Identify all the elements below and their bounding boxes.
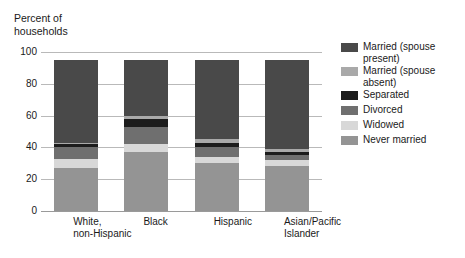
bar-segment-divorced[interactable] xyxy=(54,147,98,158)
stacked-bar-chart: Percent of households 020406080100 Marri… xyxy=(0,0,465,258)
bar-segment-separated[interactable] xyxy=(195,143,239,148)
y-axis-tick-label: 80 xyxy=(3,78,37,89)
legend-item-label: Separated xyxy=(363,89,409,101)
y-axis-tick-label: 100 xyxy=(3,46,37,57)
legend-swatch-icon xyxy=(341,67,358,76)
bar-segment-married-present[interactable] xyxy=(124,60,168,116)
legend-item-separated[interactable]: Separated xyxy=(341,89,463,103)
axis-baseline xyxy=(41,211,322,212)
bar-segment-married-present[interactable] xyxy=(265,60,309,149)
x-axis-category-label: Hispanic xyxy=(214,216,252,228)
legend-swatch-icon xyxy=(341,43,358,52)
y-axis-tick-label: 0 xyxy=(3,205,37,216)
bar-segment-married-absent[interactable] xyxy=(265,149,309,152)
bar-segment-separated[interactable] xyxy=(124,119,168,127)
y-axis-tick-label: 40 xyxy=(3,141,37,152)
y-axis-tick-label: 60 xyxy=(3,110,37,121)
bar-segment-widowed[interactable] xyxy=(54,159,98,169)
gridline xyxy=(41,52,322,53)
bar-segment-married-absent[interactable] xyxy=(54,143,98,145)
bar-segment-never-married[interactable] xyxy=(54,168,98,211)
x-axis-category-label: White, non-Hispanic xyxy=(73,216,131,240)
x-axis-category-label: Black xyxy=(143,216,167,228)
bar-segment-married-present[interactable] xyxy=(195,60,239,140)
legend-swatch-icon xyxy=(341,91,358,100)
bar-segment-married-absent[interactable] xyxy=(124,116,168,119)
bar-segment-married-present[interactable] xyxy=(54,60,98,143)
bar-segment-divorced[interactable] xyxy=(124,127,168,144)
bar-segment-widowed[interactable] xyxy=(124,144,168,152)
bar-stack[interactable] xyxy=(195,60,239,211)
legend-item-widowed[interactable]: Widowed xyxy=(341,119,463,133)
bar-segment-separated[interactable] xyxy=(54,144,98,147)
bar-segment-never-married[interactable] xyxy=(195,163,239,211)
legend-item-never-married[interactable]: Never married xyxy=(341,134,463,148)
legend-item-label: Widowed xyxy=(363,119,404,131)
bar-segment-never-married[interactable] xyxy=(124,152,168,211)
bar-segment-never-married[interactable] xyxy=(265,166,309,211)
bar-segment-separated[interactable] xyxy=(265,152,309,155)
legend-item-married-present[interactable]: Married (spouse present) xyxy=(341,41,463,64)
bar-stack[interactable] xyxy=(265,60,309,211)
bar-segment-divorced[interactable] xyxy=(195,147,239,157)
legend-item-divorced[interactable]: Divorced xyxy=(341,104,463,118)
bar-segment-divorced[interactable] xyxy=(265,155,309,160)
bar-stack[interactable] xyxy=(54,60,98,211)
legend-swatch-icon xyxy=(341,121,358,130)
bar-stack[interactable] xyxy=(124,60,168,211)
legend-item-label: Never married xyxy=(363,134,426,146)
plot-area xyxy=(41,52,322,211)
y-axis-ticks: 020406080100 xyxy=(0,52,37,211)
legend-item-married-absent[interactable]: Married (spouse absent) xyxy=(341,65,463,88)
legend-swatch-icon xyxy=(341,136,358,145)
bar-segment-widowed[interactable] xyxy=(195,157,239,163)
legend-swatch-icon xyxy=(341,106,358,115)
x-axis-category-label: Asian/Pacific Islander xyxy=(284,216,341,240)
y-axis-tick-label: 20 xyxy=(3,173,37,184)
bar-segment-married-absent[interactable] xyxy=(195,139,239,142)
y-axis-title: Percent of households xyxy=(14,12,68,37)
legend-item-label: Married (spouse present) xyxy=(363,41,435,64)
bar-segment-widowed[interactable] xyxy=(265,160,309,166)
legend: Married (spouse present)Married (spouse … xyxy=(341,41,463,149)
legend-item-label: Divorced xyxy=(363,104,402,116)
legend-item-label: Married (spouse absent) xyxy=(363,65,435,88)
